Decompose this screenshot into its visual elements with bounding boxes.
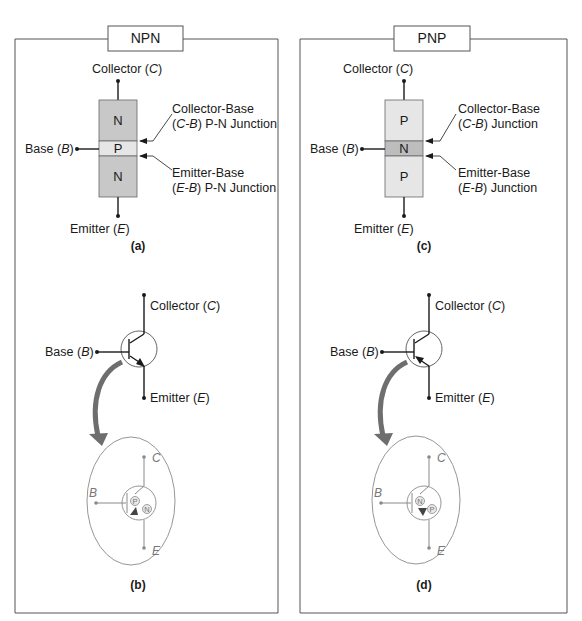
pnp-zoom-triangle-icon [418, 508, 427, 516]
npn-collector-label: Collector (C) [92, 62, 162, 76]
npn-sym-emitter-dot [142, 396, 146, 400]
npn-zoom-b-label: B [89, 486, 97, 500]
npn-emitter-label: Emitter (E) [70, 222, 130, 236]
pnp-sym-base-label: Base (B) [330, 345, 379, 359]
pnp-zoom-c-label: C [437, 451, 446, 465]
pnp-cb-junction-arrow [426, 114, 456, 141]
pnp-sym-emitter-label: Emitter (E) [435, 391, 495, 405]
npn-cb-junction-arrow [140, 114, 172, 141]
pnp-block-diagram: Collector (C) P N P Base (B) Emitter (E)… [310, 62, 540, 253]
pnp-eb-junction-arrow [426, 156, 456, 170]
pnp-cb-junction-label-1: Collector-Base [458, 102, 540, 116]
pnp-zoom-b-label: B [374, 486, 382, 500]
npn-sym-base-label: Base (B) [45, 345, 94, 359]
npn-emitter-arrow-icon [136, 358, 145, 367]
pnp-eb-junction-label-2: (E-B) Junction [458, 181, 537, 195]
npn-schematic-symbol: Collector (C) Base (B) Emitter (E) C B [45, 293, 220, 592]
pnp-zoom-diode-p-label: P [429, 505, 434, 514]
npn-zoom-c-label: C [152, 451, 161, 465]
pnp-sym-emitter-dot [427, 396, 431, 400]
pnp-panel: PNP Collector (C) P N P Base (B) Emitter… [300, 26, 567, 613]
npn-cb-junction-label-1: Collector-Base [172, 102, 254, 116]
bjt-diagram: NPN Collector (C) N P N Base (B) Emitter… [0, 0, 582, 621]
pnp-emitter-terminal-dot [402, 214, 406, 218]
npn-base-label: Base (B) [25, 142, 74, 156]
pnp-region-label-top: P [400, 113, 409, 128]
pnp-cb-junction-label-2: (C-B) Junction [458, 117, 538, 131]
npn-sym-base-dot [95, 350, 99, 354]
caption-a: (a) [131, 239, 146, 253]
pnp-zoom-arrowhead-icon [374, 433, 393, 446]
pnp-region-label-bottom: P [400, 169, 409, 184]
npn-region-label-bottom: N [113, 169, 122, 184]
pnp-collector-label: Collector (C) [343, 62, 413, 76]
pnp-zoom-curved-arrow [380, 362, 407, 436]
pnp-zoom-diode-n-label: N [417, 497, 422, 506]
npn-zoom-arrowhead-icon [89, 433, 108, 446]
npn-cb-junction-label-2: (C-B) P-N Junction [172, 117, 277, 131]
npn-block-diagram: Collector (C) N P N Base (B) Emitter (E)… [25, 62, 277, 253]
pnp-title: PNP [418, 30, 447, 46]
npn-eb-junction-arrow [140, 156, 172, 170]
npn-region-label-top: N [113, 113, 122, 128]
pnp-emitter-arrow-icon [415, 356, 424, 364]
pnp-base-label: Base (B) [310, 142, 359, 156]
caption-c: (c) [417, 239, 432, 253]
npn-panel: NPN Collector (C) N P N Base (B) Emitter… [15, 26, 278, 613]
npn-eb-junction-label-2: (E-B) P-N Junction [172, 181, 276, 195]
caption-b: (b) [130, 578, 145, 592]
pnp-region-label-mid: N [399, 141, 408, 156]
pnp-eb-junction-label-1: Emitter-Base [458, 166, 530, 180]
npn-sym-emitter-label: Emitter (E) [150, 391, 210, 405]
pnp-emitter-label: Emitter (E) [354, 222, 414, 236]
npn-zoom-curved-arrow [95, 362, 122, 436]
npn-title: NPN [131, 30, 161, 46]
npn-region-label-mid: P [114, 141, 123, 156]
caption-d: (d) [416, 578, 431, 592]
pnp-sym-base-dot [380, 350, 384, 354]
npn-zoom-diode-n-label: N [144, 505, 149, 514]
pnp-schematic-symbol: Collector (C) Base (B) Emitter (E) C B [330, 293, 505, 592]
npn-emitter-terminal-dot [116, 214, 120, 218]
pnp-sym-collector-label: Collector (C) [435, 299, 505, 313]
npn-zoom-e-label: E [152, 544, 161, 558]
npn-eb-junction-label-1: Emitter-Base [172, 166, 244, 180]
npn-zoom-diode-p-label: P [132, 497, 137, 506]
pnp-zoom-e-label: E [437, 544, 446, 558]
npn-zoom-triangle-icon [130, 507, 138, 515]
npn-sym-collector-label: Collector (C) [150, 299, 220, 313]
